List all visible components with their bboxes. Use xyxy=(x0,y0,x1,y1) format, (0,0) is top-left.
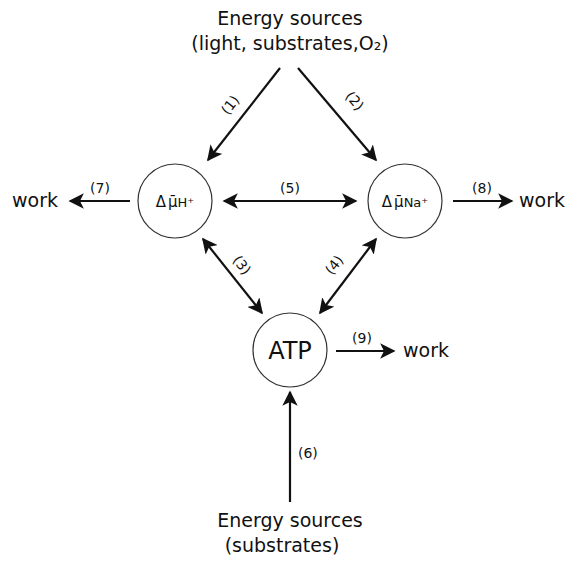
top-source-title: Energy sources xyxy=(217,7,363,29)
arrow-1-line xyxy=(208,68,280,160)
arrow-9: (9) work xyxy=(336,330,449,361)
arrow-8: (8) work xyxy=(453,180,565,211)
arrow-4-label: (4) xyxy=(322,252,347,277)
arrow-6: (6) xyxy=(290,392,318,502)
arrow-5: (5) xyxy=(224,180,356,201)
arrow-2: (2) xyxy=(298,68,376,160)
arrow-2-line xyxy=(298,68,376,160)
energy-conversion-diagram: Energy sources (light, substrates,O₂) (1… xyxy=(0,0,575,565)
work-output-right: work xyxy=(519,189,565,211)
arrow-2-label: (2) xyxy=(342,88,367,113)
arrow-3-label: (3) xyxy=(230,252,255,277)
proton-gradient-label: Δμ̄H⁺ xyxy=(156,193,194,211)
arrow-3-line xyxy=(203,239,262,313)
atp-node: ATP xyxy=(253,313,327,387)
arrow-6-label: (6) xyxy=(298,445,318,461)
arrow-4: (4) xyxy=(320,239,376,313)
bottom-energy-source: Energy sources (substrates) xyxy=(217,509,363,556)
arrow-5-label: (5) xyxy=(280,180,300,196)
arrow-1-label: (1) xyxy=(218,92,243,117)
top-source-detail: (light, substrates,O₂) xyxy=(191,32,388,54)
work-output-atp: work xyxy=(403,339,449,361)
proton-gradient-node: Δμ̄H⁺ xyxy=(138,164,212,238)
arrow-7: (7) work xyxy=(12,180,130,211)
arrow-7-label: (7) xyxy=(90,180,110,196)
arrow-1: (1) xyxy=(208,68,280,160)
arrow-8-label: (8) xyxy=(472,180,492,196)
bottom-source-detail: (substrates) xyxy=(225,534,340,556)
atp-label: ATP xyxy=(268,337,312,365)
sodium-gradient-label: Δμ̄Na⁺ xyxy=(382,193,428,211)
bottom-source-title: Energy sources xyxy=(217,509,363,531)
arrow-9-label: (9) xyxy=(352,330,372,346)
sodium-gradient-node: Δμ̄Na⁺ xyxy=(368,164,442,238)
work-output-left: work xyxy=(12,189,58,211)
arrow-3: (3) xyxy=(203,239,262,313)
top-energy-source: Energy sources (light, substrates,O₂) xyxy=(191,7,388,54)
arrow-4-line xyxy=(320,239,376,313)
